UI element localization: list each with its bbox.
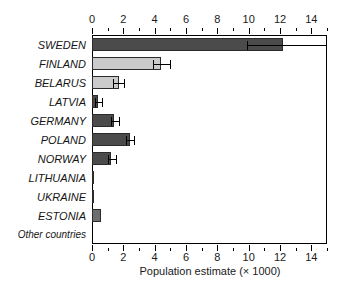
category-label-norway: NORWAY: [38, 153, 86, 165]
error-bar-cap: [134, 136, 135, 145]
x-axis-bottom-tick-labels: 02468101214: [0, 250, 342, 264]
category-label-lithuania: LITHUANIA: [29, 172, 86, 184]
error-bar-cap: [170, 60, 171, 69]
category-label-sweden: SWEDEN: [38, 39, 86, 51]
error-bar-cap: [108, 155, 109, 164]
x-tick-minor: [264, 28, 265, 31]
x-tick-minor: [327, 28, 328, 31]
error-bar-germany: [111, 121, 120, 122]
category-label-other-countries: Other countries: [18, 229, 86, 241]
x-tick-major: [186, 28, 187, 34]
x-tick-major: [92, 28, 93, 34]
x-tick-label: 14: [305, 250, 317, 264]
x-axis-title: Population estimate (× 1000): [92, 265, 328, 277]
category-label-germany: GERMANY: [30, 115, 86, 127]
bar-estonia: [92, 209, 101, 222]
x-tick-major: [249, 28, 250, 34]
error-bar-norway: [108, 159, 117, 160]
x-tick-label: 12: [274, 250, 286, 264]
x-tick-major: [217, 28, 218, 34]
bar-finland: [92, 57, 161, 70]
x-tick-minor: [202, 28, 203, 31]
x-axis-top-tick-labels: 02468101214: [0, 12, 342, 26]
x-tick-label: 10: [243, 12, 255, 26]
x-tick-label: 12: [274, 12, 286, 26]
category-axis-labels: SWEDENFINLANDBELARUSLATVIAGERMANYPOLANDN…: [0, 35, 90, 244]
error-bar-finland: [153, 64, 170, 65]
x-tick-label: 8: [214, 250, 220, 264]
category-label-estonia: ESTONIA: [38, 210, 86, 222]
x-tick-minor: [139, 28, 140, 31]
error-bar-cap: [119, 117, 120, 126]
bar-series: [92, 35, 327, 244]
category-label-latvia: LATVIA: [49, 96, 86, 108]
error-bar-cap: [126, 136, 127, 145]
x-tick-label: 0: [89, 12, 95, 26]
error-bar-cap: [247, 41, 248, 50]
category-label-belarus: BELARUS: [35, 77, 86, 89]
x-tick-minor: [296, 28, 297, 31]
error-bar-belarus: [113, 83, 124, 84]
x-tick-label: 4: [152, 12, 158, 26]
x-tick-label: 6: [183, 250, 189, 264]
category-label-poland: POLAND: [41, 134, 86, 146]
x-tick-minor: [108, 28, 109, 31]
x-tick-major: [280, 28, 281, 34]
category-label-finland: FINLAND: [39, 58, 86, 70]
error-bar-cap: [113, 79, 114, 88]
x-tick-label: 10: [243, 250, 255, 264]
chart-container: 02468101214 02468101214 SWEDENFINLANDBEL…: [0, 0, 342, 285]
category-label-ukraine: UKRAINE: [37, 191, 86, 203]
error-bar-cap: [111, 117, 112, 126]
x-tick-minor: [170, 28, 171, 31]
error-bar-sweden: [247, 45, 327, 46]
bar-lithuania: [92, 171, 94, 184]
x-tick-label: 2: [120, 250, 126, 264]
x-tick-label: 6: [183, 12, 189, 26]
error-bar-cap: [116, 155, 117, 164]
x-tick-label: 2: [120, 12, 126, 26]
x-tick-label: 8: [214, 12, 220, 26]
error-bar-cap: [124, 79, 125, 88]
error-bar-cap: [102, 98, 103, 107]
x-tick-label: 0: [89, 250, 95, 264]
x-tick-label: 4: [152, 250, 158, 264]
x-axis-top-ticks: [0, 28, 342, 35]
x-tick-minor: [233, 28, 234, 31]
x-tick-major: [155, 28, 156, 34]
error-bar-latvia: [95, 102, 102, 103]
error-bar-cap: [153, 60, 154, 69]
error-bar-cap: [95, 98, 96, 107]
x-tick-major: [123, 28, 124, 34]
x-tick-major: [311, 28, 312, 34]
bar-ukraine: [92, 190, 94, 203]
error-bar-poland: [126, 140, 134, 141]
bar-poland: [92, 133, 130, 146]
x-tick-label: 14: [305, 12, 317, 26]
